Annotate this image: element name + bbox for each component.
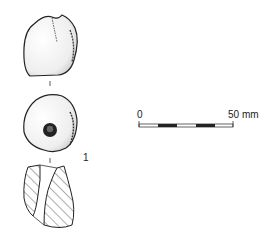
section-view: [24, 165, 74, 228]
object-number: 1: [83, 153, 89, 163]
perforation-view: [24, 95, 77, 152]
exterior-view: [24, 15, 77, 76]
scale-end-label: 50 mm: [228, 110, 259, 120]
scale-bar: [139, 121, 233, 127]
scale-start-label: 0: [137, 110, 143, 120]
